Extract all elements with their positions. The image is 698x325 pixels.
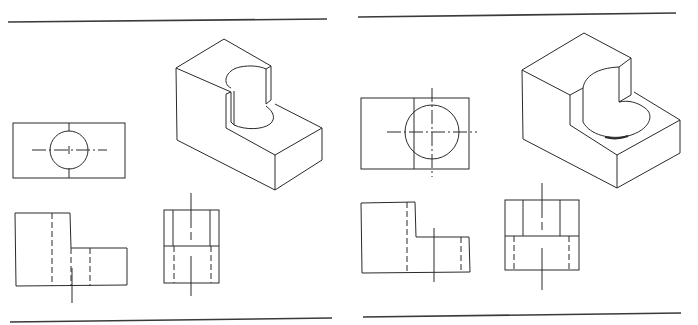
front-view-right	[361, 202, 470, 282]
side-view-left	[164, 193, 219, 296]
side-view-right	[505, 183, 579, 290]
top-rule-right	[358, 13, 676, 17]
bottom-rule-right	[363, 313, 681, 317]
panel-left	[8, 19, 332, 322]
front-view-left	[15, 213, 127, 303]
isometric-view-right	[522, 33, 680, 188]
drawing-canvas	[0, 0, 698, 325]
panel-right	[358, 13, 681, 317]
isometric-view-left	[176, 39, 322, 190]
bottom-rule-left	[10, 318, 332, 322]
top-view-left	[13, 123, 125, 178]
top-rule-left	[8, 19, 327, 22]
top-view-right	[361, 88, 477, 177]
